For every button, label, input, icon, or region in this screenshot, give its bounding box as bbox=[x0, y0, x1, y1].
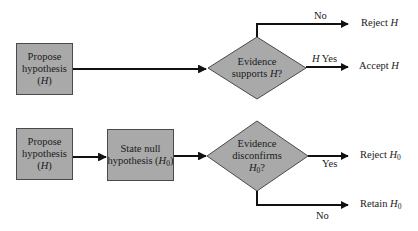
flowchart-connectors bbox=[0, 0, 418, 231]
box-line: Propose bbox=[22, 51, 67, 63]
arrow-no-top bbox=[257, 24, 348, 37]
box-line: State null bbox=[108, 143, 174, 155]
box-line: hypothesis bbox=[22, 63, 67, 75]
outcome-reject-h0: Reject H0 bbox=[360, 149, 401, 160]
var-h: H bbox=[389, 149, 397, 160]
outcome-reject-h: Reject H bbox=[361, 17, 398, 28]
decision-label-top: Evidence supports H? bbox=[218, 56, 296, 80]
propose-hypothesis-box-top: Propose hypothesis (H) bbox=[16, 43, 73, 95]
box-line: Propose bbox=[22, 136, 67, 148]
decision-line: Evidence bbox=[218, 56, 296, 68]
decision-text: supports bbox=[232, 68, 270, 79]
var-h: H bbox=[390, 198, 398, 209]
decision-label-bottom: Evidence disconfirms H0? bbox=[218, 138, 296, 174]
branch-label-no-bottom: No bbox=[316, 210, 329, 221]
var-h: H bbox=[312, 53, 320, 64]
branch-label-yes-bottom: Yes bbox=[322, 158, 337, 169]
outcome-text: Accept bbox=[359, 60, 391, 71]
arrow-no-bottom bbox=[257, 191, 348, 205]
yes-text: Yes bbox=[320, 53, 338, 64]
decision-line: disconfirms bbox=[218, 150, 296, 162]
decision-line: Evidence bbox=[218, 138, 296, 150]
outcome-text: Retain bbox=[360, 198, 390, 209]
outcome-text: Reject bbox=[361, 17, 390, 28]
var-h: H bbox=[391, 60, 399, 71]
box-text: hypothesis ( bbox=[108, 155, 159, 166]
outcome-retain-h0: Retain H0 bbox=[360, 198, 401, 209]
paren: ) bbox=[48, 75, 52, 86]
branch-label-no-top: No bbox=[314, 10, 327, 21]
qmark: ? bbox=[260, 162, 265, 173]
var-h: H bbox=[270, 68, 278, 79]
box-line: hypothesis bbox=[22, 148, 67, 160]
var-h: H bbox=[390, 17, 398, 28]
propose-hypothesis-box-bottom: Propose hypothesis (H) bbox=[16, 128, 73, 180]
subscript: 0 bbox=[397, 153, 401, 162]
branch-label-yes-top: H Yes bbox=[312, 53, 337, 64]
state-null-hypothesis-box: State null hypothesis (H0) bbox=[107, 129, 174, 181]
var-h: H bbox=[249, 162, 257, 173]
outcome-accept-h: Accept H bbox=[359, 60, 399, 71]
outcome-text: Reject bbox=[360, 149, 389, 160]
paren: ) bbox=[170, 155, 174, 166]
paren: ) bbox=[48, 160, 52, 171]
subscript: 0 bbox=[398, 202, 402, 211]
qmark: ? bbox=[278, 68, 283, 79]
